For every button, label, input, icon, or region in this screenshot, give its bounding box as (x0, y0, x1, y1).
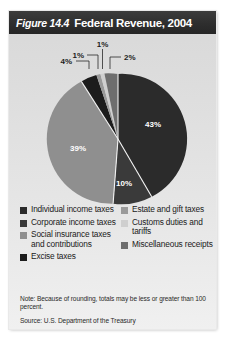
figure-note: Note: Because of rounding, totals may be… (20, 295, 210, 311)
legend-label: Miscellaneous receipts (132, 240, 213, 250)
pie-label-corporate-income-taxes: 10% (116, 179, 132, 188)
legend-swatch-icon (121, 220, 128, 227)
legend-label: Estate and gift taxes (132, 205, 204, 215)
chart-legend: Individual income taxes Corporate income… (9, 205, 216, 285)
pie-label-miscellaneous-receipts: 2% (124, 53, 136, 62)
figure-number: Figure 14.4 (16, 17, 69, 29)
figure-footnotes: Note: Because of rounding, totals may be… (20, 295, 210, 326)
legend-swatch-icon (20, 207, 27, 214)
legend-swatch-icon (20, 232, 27, 239)
legend-item-individual-income-taxes: Individual income taxes (20, 205, 120, 215)
legend-label: Individual income taxes (31, 205, 114, 215)
pie-chart-svg: 43% 39% 10% 4% 1% 1% 2% (9, 34, 216, 206)
legend-swatch-icon (121, 242, 128, 249)
legend-swatch-icon (20, 220, 27, 227)
legend-column-right: Estate and gift taxes Customs duties and… (121, 205, 214, 252)
pie-label-customs-duties-and-tariffs: 1% (97, 40, 109, 49)
figure-header: Figure 14.4 Federal Revenue, 2004 (9, 11, 216, 34)
legend-item-miscellaneous-receipts: Miscellaneous receipts (121, 240, 214, 250)
pie-chart: 43% 39% 10% 4% 1% 1% 2% (9, 34, 216, 206)
legend-label: Customs duties and tariffs (132, 218, 214, 237)
pie-label-individual-income-taxes: 43% (145, 120, 161, 129)
legend-item-excise-taxes: Excise taxes (20, 252, 120, 262)
legend-item-estate-and-gift-taxes: Estate and gift taxes (121, 205, 214, 215)
legend-item-customs-duties-and-tariffs: Customs duties and tariffs (121, 218, 214, 237)
pie-label-excise-taxes: 4% (60, 57, 72, 66)
legend-label: Excise taxes (31, 252, 76, 262)
pie-label-estate-and-gift-taxes: 1% (72, 51, 84, 60)
figure-title: Federal Revenue, 2004 (74, 17, 192, 29)
legend-swatch-icon (121, 207, 128, 214)
legend-item-corporate-income-taxes: Corporate income taxes (20, 218, 120, 228)
legend-swatch-icon (20, 254, 27, 261)
legend-column-left: Individual income taxes Corporate income… (20, 205, 120, 265)
figure-card: Figure 14.4 Federal Revenue, 2004 (9, 11, 216, 329)
figure-source: Source: U.S. Department of the Treasury (20, 317, 210, 325)
legend-item-social-insurance-taxes: Social insurance taxes and contributions (20, 230, 120, 249)
legend-label: Social insurance taxes and contributions (31, 230, 120, 249)
pie-label-social-insurance: 39% (70, 144, 86, 153)
legend-label: Corporate income taxes (31, 218, 116, 228)
